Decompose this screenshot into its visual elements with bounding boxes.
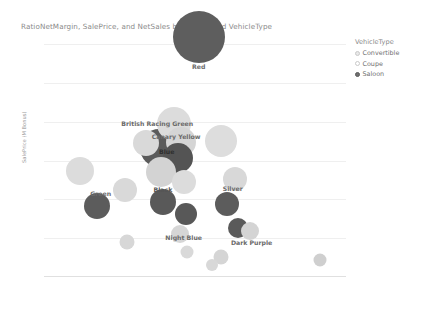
bubble-silver[interactable] <box>223 167 247 191</box>
legend: VehicleType ConvertibleCoupeSaloon <box>355 38 423 81</box>
bubble-taupe[interactable] <box>120 235 135 250</box>
bubble-pearl[interactable] <box>205 125 237 157</box>
legend-item-coupe[interactable]: Coupe <box>355 60 423 68</box>
bubble-plum[interactable] <box>241 222 259 240</box>
legend-item-label: Coupe <box>363 60 383 68</box>
legend-item-saloon[interactable]: Saloon <box>355 70 423 78</box>
page-title: RatioNetMargin, SalePrice, and NetSales … <box>21 22 272 31</box>
bubble-bronze[interactable] <box>206 259 218 271</box>
legend-item-convertible[interactable]: Convertible <box>355 49 423 57</box>
bubble-stone[interactable] <box>172 170 196 194</box>
legend-item-label: Convertible <box>363 49 400 57</box>
bubble-ash[interactable] <box>181 245 194 258</box>
bubble-ivory[interactable] <box>133 130 159 156</box>
legend-item-label: Saloon <box>363 70 385 78</box>
bubble-copper[interactable] <box>313 254 326 267</box>
legend-swatch-saloon <box>355 72 360 77</box>
legend-title: VehicleType <box>355 38 423 46</box>
legend-swatch-convertible <box>355 51 360 56</box>
bubble-grey[interactable] <box>66 157 94 185</box>
bubble-graphite[interactable] <box>175 203 197 225</box>
bubble-night-blue[interactable] <box>171 225 189 243</box>
bubble-charcoal[interactable] <box>150 189 176 215</box>
legend-swatch-coupe <box>355 61 360 66</box>
legend-items: ConvertibleCoupeSaloon <box>355 49 423 78</box>
bubble-chart-visual: RatioNetMargin, SalePrice, and NetSales … <box>0 0 426 321</box>
bubble-red[interactable] <box>173 11 225 63</box>
plot-frame: RedBritish Racing GreenCanary YellowBlue… <box>44 44 346 277</box>
bubble-slate[interactable] <box>215 192 239 216</box>
plot-area[interactable]: RedBritish Racing GreenCanary YellowBlue… <box>44 44 346 277</box>
y-axis-title: SalePrice (M Bonus) <box>21 111 27 163</box>
bubble-green[interactable] <box>84 193 110 219</box>
bubble-label-red: Red <box>192 63 205 70</box>
bubble-sand[interactable] <box>113 178 137 202</box>
